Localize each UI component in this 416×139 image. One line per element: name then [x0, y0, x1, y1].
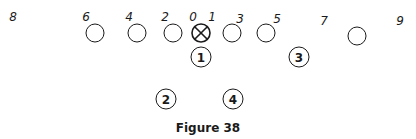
lineman-circle-icon [257, 24, 276, 43]
hole-number-2: 2 [161, 11, 169, 23]
hole-number-7: 7 [320, 15, 328, 27]
hole-number-1: 1 [208, 11, 216, 23]
back-3-circle: 3 [289, 47, 310, 68]
hole-number-5: 5 [273, 13, 281, 25]
figure-caption: Figure 38 [0, 121, 416, 135]
lineman-circle-icon [128, 24, 147, 43]
hole-number-0: 0 [189, 11, 197, 23]
hole-number-6: 6 [82, 11, 90, 23]
back-2-label: 2 [162, 92, 170, 106]
back-3-label: 3 [295, 50, 303, 64]
hole-number-8: 8 [9, 11, 17, 23]
back-2-circle: 2 [156, 89, 177, 110]
hole-number-3: 3 [236, 13, 244, 25]
center-x-circle-icon [191, 23, 212, 44]
hole-number-4: 4 [125, 11, 133, 23]
back-1-circle: 1 [191, 47, 212, 68]
end-circle-icon [348, 27, 367, 46]
formation-diagram: 8 6 4 2 0 1 3 5 7 9 1 3 2 4 Figure 38 [0, 0, 416, 139]
lineman-circle-icon [86, 24, 105, 43]
back-4-circle: 4 [223, 89, 244, 110]
back-4-label: 4 [229, 92, 237, 106]
lineman-circle-icon [164, 24, 183, 43]
back-1-label: 1 [197, 50, 205, 64]
lineman-circle-icon [223, 24, 242, 43]
hole-number-9: 9 [396, 15, 404, 27]
